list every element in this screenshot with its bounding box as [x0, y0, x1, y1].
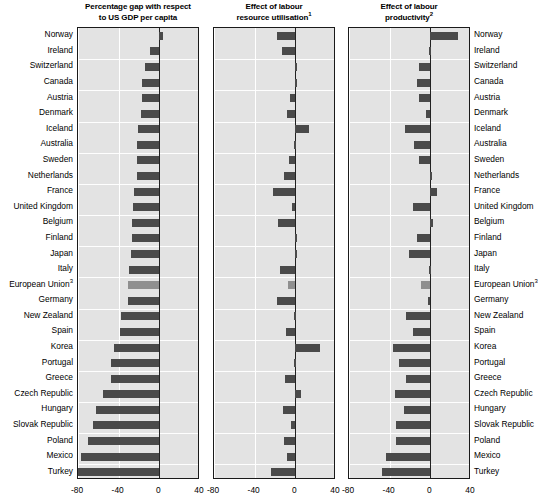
- category-label-turkey: Turkey: [474, 467, 499, 475]
- bar: [430, 32, 457, 40]
- category-label-netherlands: Netherlands: [28, 171, 73, 179]
- gridline-horizontal: [349, 464, 469, 465]
- category-label-sweden: Sweden: [474, 155, 504, 163]
- bar: [428, 297, 430, 305]
- bar: [131, 250, 159, 258]
- category-label-australia: Australia: [474, 139, 507, 147]
- bar: [137, 172, 159, 180]
- gridline-horizontal: [349, 215, 469, 216]
- bar: [132, 219, 159, 227]
- category-label-netherlands: Netherlands: [474, 171, 519, 179]
- bar: [421, 281, 430, 289]
- gridline-horizontal: [214, 402, 334, 403]
- bar: [295, 344, 319, 352]
- gridline-horizontal: [214, 277, 334, 278]
- bar: [295, 390, 301, 398]
- gridline-horizontal: [214, 433, 334, 434]
- gridline-horizontal: [349, 246, 469, 247]
- bar: [429, 266, 430, 274]
- category-label-hungary: Hungary: [41, 404, 73, 412]
- gridline-horizontal: [349, 402, 469, 403]
- bar: [406, 375, 430, 383]
- bar: [295, 63, 296, 71]
- category-label-united-kingdom: United Kingdom: [13, 202, 73, 210]
- category-label-denmark: Denmark: [474, 108, 508, 116]
- panel-title-productivity-line2: productivity: [385, 13, 430, 22]
- x-tick-label: -80: [333, 485, 363, 495]
- bar: [430, 219, 433, 227]
- gridline-horizontal: [349, 309, 469, 310]
- panel-title-productivity: Effect of labour productivity2: [334, 2, 484, 23]
- category-label-switzerland: Switzerland: [474, 61, 517, 69]
- bar: [291, 421, 295, 429]
- bar: [295, 79, 296, 87]
- label-superscript: 3: [70, 278, 73, 284]
- bar: [103, 390, 159, 398]
- panel-title-utilisation-line1: Effect of labour: [245, 2, 302, 11]
- gridline-horizontal: [214, 122, 334, 123]
- category-label-european-union: European Union3: [474, 280, 538, 288]
- gridline-horizontal: [214, 59, 334, 60]
- category-label-australia: Australia: [40, 139, 73, 147]
- bar: [159, 32, 163, 40]
- gridline-horizontal: [214, 371, 334, 372]
- gridline-horizontal: [78, 402, 198, 403]
- bar: [294, 312, 295, 320]
- category-label-hungary: Hungary: [474, 404, 506, 412]
- gridline-vertical: [214, 28, 215, 478]
- category-label-germany: Germany: [39, 295, 73, 303]
- category-label-switzerland: Switzerland: [30, 61, 73, 69]
- gridline-horizontal: [349, 122, 469, 123]
- bar: [121, 312, 160, 320]
- gridline-horizontal: [78, 215, 198, 216]
- bar: [295, 125, 308, 133]
- panel-title-gap-line2: to US GDP per capita: [99, 13, 177, 22]
- category-label-portugal: Portugal: [42, 358, 73, 366]
- label-superscript: 3: [535, 278, 538, 284]
- bar: [150, 47, 159, 55]
- category-labels-right: NorwayIrelandSwitzerlandCanadaAustriaDen…: [474, 27, 532, 479]
- bar: [81, 453, 159, 461]
- bar: [138, 125, 159, 133]
- gridline-horizontal: [78, 153, 198, 154]
- category-label-european-union: European Union3: [9, 280, 73, 288]
- gridline-horizontal: [214, 340, 334, 341]
- panel-title-utilisation-line2: resource utilisation: [236, 13, 308, 22]
- gridline-horizontal: [214, 215, 334, 216]
- category-label-new-zealand: New Zealand: [24, 311, 73, 319]
- x-axis-productivity: -80-40040: [348, 485, 470, 499]
- panel-title-utilisation: Effect of labour resource utilisation1: [199, 2, 349, 23]
- bar: [419, 94, 430, 102]
- category-label-portugal: Portugal: [474, 358, 505, 366]
- bar: [134, 188, 159, 196]
- panel-productivity-plot: [348, 27, 470, 479]
- category-label-iceland: Iceland: [474, 124, 501, 132]
- bar: [414, 141, 430, 149]
- category-label-belgium: Belgium: [474, 217, 504, 225]
- gridline-vertical: [255, 28, 256, 478]
- gridline-horizontal: [214, 464, 334, 465]
- panel-gap-plot: [77, 27, 199, 479]
- gridline-vertical: [349, 28, 350, 478]
- category-label-korea: Korea: [474, 342, 496, 350]
- category-label-greece: Greece: [46, 373, 73, 381]
- gridline-horizontal: [78, 277, 198, 278]
- category-label-united-kingdom: United Kingdom: [474, 202, 534, 210]
- category-label-germany: Germany: [474, 295, 508, 303]
- panel-title-productivity-line1: Effect of labour: [380, 2, 437, 11]
- gridline-horizontal: [78, 246, 198, 247]
- category-label-italy: Italy: [58, 264, 73, 272]
- gridline-horizontal: [349, 90, 469, 91]
- bar: [406, 312, 430, 320]
- bar: [114, 344, 160, 352]
- category-label-slovak-republic: Slovak Republic: [13, 420, 73, 428]
- category-label-ireland: Ireland: [47, 46, 73, 54]
- panel-title-gap-line1: Percentage gap with respect: [85, 2, 191, 11]
- bar: [419, 156, 430, 164]
- gridline-horizontal: [78, 59, 198, 60]
- category-label-france: France: [474, 186, 500, 194]
- bar: [145, 63, 159, 71]
- bar: [413, 328, 430, 336]
- bar: [290, 94, 295, 102]
- bar: [409, 250, 430, 258]
